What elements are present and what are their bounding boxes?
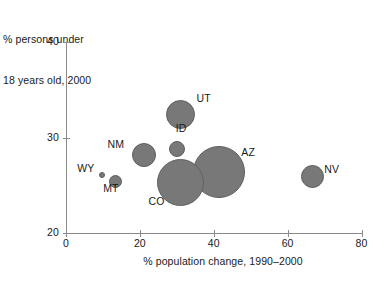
bubble-nv[interactable] [301, 165, 324, 188]
bubble-wy[interactable] [99, 172, 105, 178]
x-axis-title-text: % population change, 1990–2000 [143, 255, 302, 267]
bubble-label-id: ID [176, 122, 187, 134]
bubble-label-co: CO [149, 195, 165, 207]
bubble-label-nv: NV [324, 163, 339, 175]
bubble-label-mt: MT [103, 182, 118, 194]
bubble-label-wy: WY [77, 162, 94, 174]
plot-area: UTNMIDCOAZNVWYMT [0, 0, 384, 281]
bubble-label-az: AZ [241, 146, 255, 158]
bubble-chart-figure: % persons under 18 years old, 2000 20304… [0, 0, 384, 281]
bubble-label-ut: UT [197, 92, 211, 104]
bubble-label-nm: NM [108, 138, 125, 150]
x-axis-title: % population change, 1990–2000 [0, 255, 384, 267]
bubble-id[interactable] [169, 141, 185, 157]
bubble-nm[interactable] [132, 143, 156, 167]
